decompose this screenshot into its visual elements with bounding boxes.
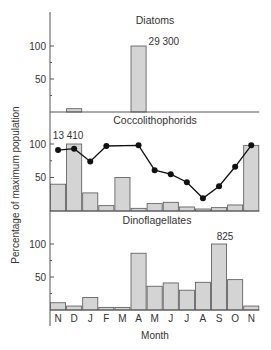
bar [131,46,146,112]
data-point [248,142,254,148]
bar [83,193,98,211]
bar [163,202,178,211]
bar [212,244,227,310]
plankton-chart: Diatoms5010029 300Coccolithophorids50100… [0,0,271,350]
bar [115,178,130,212]
bar [51,184,66,211]
y-tick-label: 50 [35,74,47,85]
bar [131,253,146,310]
bar [244,306,259,310]
data-point [168,171,174,177]
data-point [55,147,61,153]
data-point [103,143,109,149]
y-tick-label: 100 [29,239,46,250]
bar [179,290,194,310]
y-tick-label: 100 [29,41,46,52]
x-tick-label: A [200,313,207,324]
max-annotation: 13 410 [53,130,84,141]
data-point [184,179,190,185]
x-tick-label: J [168,313,173,324]
y-tick-label: 50 [35,172,47,183]
bar [244,145,259,211]
x-tick-label: F [103,313,109,324]
y-tick-label: 100 [29,139,46,150]
data-point [200,195,206,201]
x-axis-title: Month [141,330,169,341]
data-point [87,158,93,164]
bar [67,306,82,310]
bar [99,206,114,211]
x-tick-label: M [150,313,158,324]
panel-title: Diatoms [136,14,175,26]
max-annotation: 825 [217,231,234,242]
bar [51,303,66,310]
x-tick-label: S [216,313,223,324]
x-tick-label: J [184,313,189,324]
bar [228,205,243,211]
data-point [136,142,142,148]
bar [67,144,82,211]
bar [163,283,178,310]
bar [179,207,194,211]
bar [147,286,162,310]
x-tick-label: D [71,313,78,324]
x-tick-label: A [135,313,142,324]
x-tick-label: M [118,313,126,324]
bar [147,204,162,211]
max-annotation: 29 300 [149,36,180,47]
bar [228,280,243,310]
data-point [216,183,222,189]
x-tick-label: J [88,313,93,324]
y-axis-title: Percentage of maximum population [10,106,21,263]
x-tick-label: O [231,313,239,324]
x-tick-label: N [248,313,255,324]
bar [212,208,227,211]
data-point [71,146,77,152]
bar [195,282,210,310]
x-tick-label: N [54,313,61,324]
data-point [152,167,158,173]
panel-title: Dinoflagellates [123,214,192,226]
data-point [232,164,238,170]
bar [83,297,98,310]
panel-title: Coccolithophorids [113,114,196,126]
y-tick-label: 50 [35,272,47,283]
